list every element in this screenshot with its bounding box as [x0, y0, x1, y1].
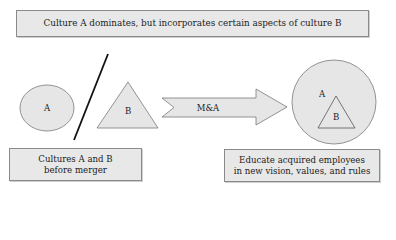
before-caption-line2: before merger — [38, 165, 112, 176]
merged-b-label: B — [333, 112, 339, 122]
merged-culture-shape: A B — [292, 60, 376, 144]
arrow-label: M&A — [197, 103, 220, 113]
culture-b-label: B — [125, 106, 131, 116]
merged-a-label: A — [318, 89, 326, 99]
after-caption-box: Educate acquired employees in new vision… — [224, 149, 380, 182]
merger-arrow: M&A — [162, 89, 287, 125]
culture-a-label: A — [43, 103, 51, 113]
culture-b-shape: B — [97, 82, 158, 128]
after-caption-line2: in new vision, values, and rules — [234, 166, 371, 177]
before-caption-box: Cultures A and B before merger — [9, 148, 142, 181]
after-caption-line1: Educate acquired employees — [234, 155, 371, 166]
before-caption-line1: Cultures A and B — [38, 154, 112, 165]
culture-a-shape: A — [20, 85, 74, 131]
